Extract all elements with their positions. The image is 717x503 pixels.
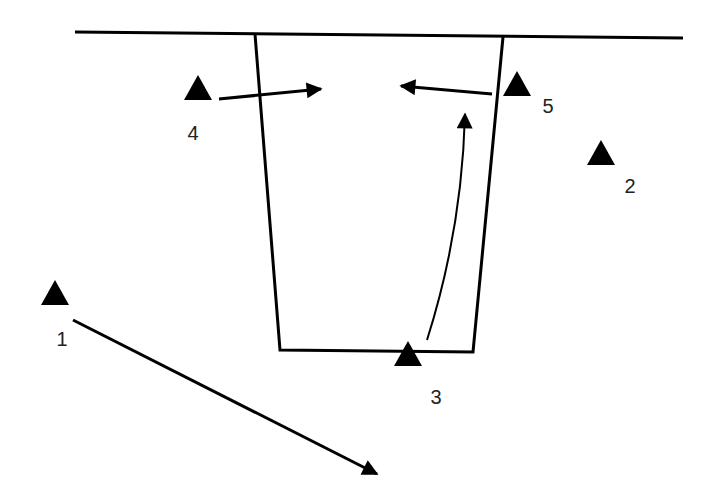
station-label: 2 <box>624 175 635 197</box>
triangle-marker-icon <box>41 280 69 305</box>
triangle-marker-icon <box>503 71 531 96</box>
station-label: 4 <box>187 122 198 144</box>
station-group: 12345 <box>41 71 636 408</box>
triangle-marker-icon <box>587 140 615 165</box>
triangle-marker-icon <box>394 341 422 366</box>
ground-surface-line <box>75 32 683 38</box>
station-2: 2 <box>587 140 636 197</box>
station-label: 3 <box>430 386 441 408</box>
station-label: 1 <box>56 328 67 350</box>
station-5: 5 <box>503 71 554 117</box>
station-4: 4 <box>184 75 212 144</box>
arrow-from-4 <box>219 89 321 99</box>
arrow-from-5 <box>401 86 492 94</box>
arrow-from-1 <box>73 320 377 474</box>
pit-outline <box>255 34 503 352</box>
arrow-from-3 <box>427 114 465 340</box>
station-label: 5 <box>542 95 553 117</box>
station-1: 1 <box>41 280 69 350</box>
arrow-group <box>73 86 492 474</box>
diagram-canvas: 12345 <box>0 0 717 503</box>
triangle-marker-icon <box>184 75 212 100</box>
